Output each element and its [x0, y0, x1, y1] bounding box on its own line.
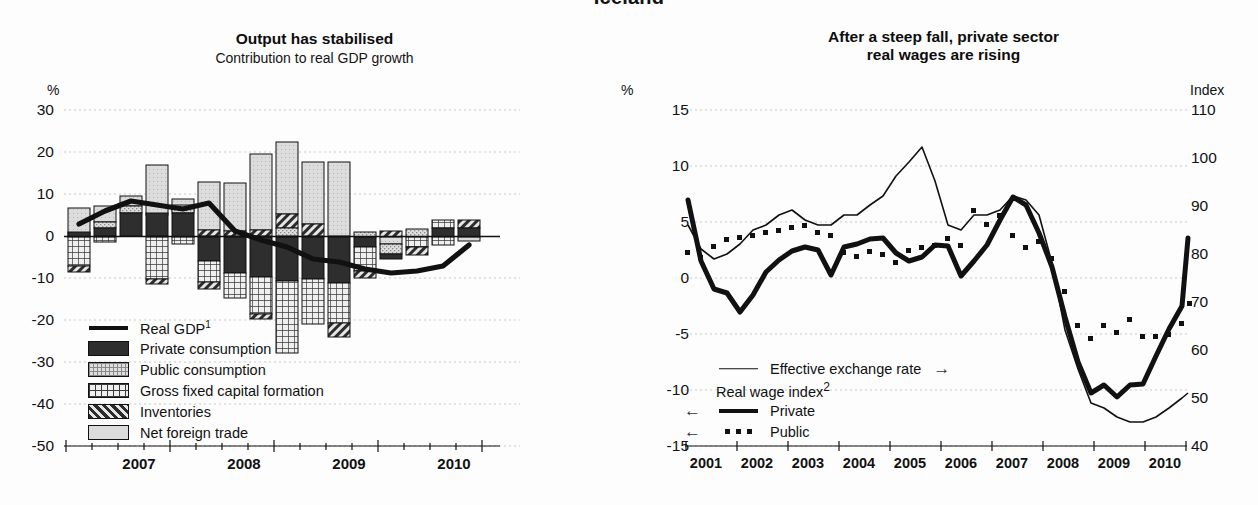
right-chart-legend: Effective exchange rate → Real wage inde…	[684, 358, 950, 442]
legend-item-private-consumption: Private consumption	[88, 338, 324, 359]
right-real-wage-public-dots	[685, 208, 1192, 341]
arrow-left-icon-private: ←	[684, 401, 718, 421]
arrow-right-icon: →	[933, 359, 950, 379]
legend-label-net-foreign-trade: Net foreign trade	[140, 425, 248, 441]
grid-hatch-swatch-icon	[88, 383, 129, 398]
legend-heading-real-wage-index: Real wage index2	[684, 379, 950, 400]
legend-label-real-wage-index: Real wage index2	[684, 380, 830, 400]
plain-light-swatch-icon	[88, 425, 129, 440]
diagonal-hatch-swatch-icon	[88, 404, 129, 419]
left-chart-panel: Output has stabilised Contribution to re…	[0, 0, 629, 505]
legend-item-public: ← Public	[684, 421, 950, 442]
line-swatch-icon	[88, 320, 129, 335]
left-chart-legend: Real GDP1 Private consumption Public con…	[88, 317, 324, 443]
legend-label-gross-fixed-capital-formation: Gross fixed capital formation	[140, 383, 324, 399]
dots-swatch-icon	[718, 424, 759, 439]
legend-item-inventories: Inventories	[88, 401, 324, 422]
legend-item-private: ← Private	[684, 400, 950, 421]
legend-item-public-consumption: Public consumption	[88, 359, 324, 380]
legend-item-net-foreign-trade: Net foreign trade	[88, 422, 324, 443]
right-chart-panel: After a steep fall, private sector real …	[629, 0, 1258, 505]
legend-item-gross-fixed-capital-formation: Gross fixed capital formation	[88, 380, 324, 401]
legend-item-effective-exchange-rate: Effective exchange rate →	[684, 358, 950, 379]
legend-label-inventories: Inventories	[140, 404, 211, 420]
figure-page: Iceland Output has stabilised Contributi…	[0, 0, 1258, 505]
legend-label-real-gdp: Real GDP1	[140, 319, 211, 337]
legend-label-effective-exchange-rate: Effective exchange rate	[770, 361, 921, 377]
thin-line-swatch-icon	[718, 361, 759, 376]
legend-label-private-consumption: Private consumption	[140, 341, 271, 357]
legend-label-public: Public	[770, 424, 810, 440]
solid-dark-swatch-icon	[88, 341, 129, 356]
legend-item-real-gdp: Real GDP1	[88, 317, 324, 338]
stipple-swatch-icon	[88, 362, 129, 377]
thick-line-swatch-icon	[718, 403, 759, 418]
legend-label-private: Private	[770, 403, 815, 419]
arrow-left-icon-public: ←	[684, 422, 718, 442]
legend-label-public-consumption: Public consumption	[140, 362, 266, 378]
